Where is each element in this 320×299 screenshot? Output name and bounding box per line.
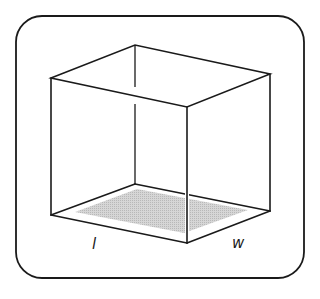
width-label: w — [232, 234, 245, 252]
prism-diagram: l w — [0, 0, 320, 299]
rounded-frame — [16, 16, 304, 278]
